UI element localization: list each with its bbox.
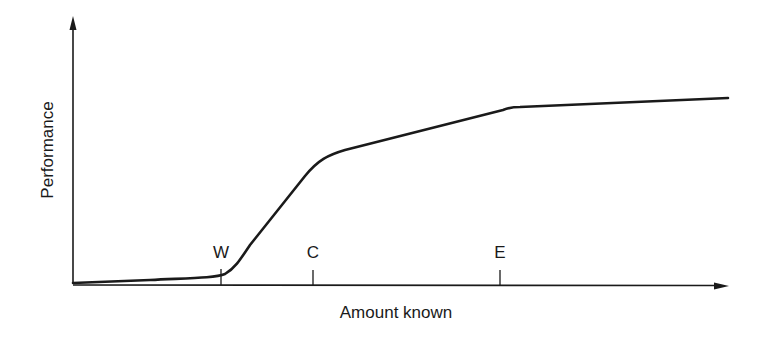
marker-label-c: C xyxy=(307,244,319,261)
x-axis xyxy=(73,285,718,286)
y-axis-arrow-icon xyxy=(70,16,77,30)
x-axis-arrow-icon xyxy=(714,283,729,290)
marker-label-e: E xyxy=(494,244,505,261)
x-axis-label: Amount known xyxy=(340,304,452,321)
y-axis-label: Performance xyxy=(39,101,56,198)
performance-curve xyxy=(73,98,728,283)
marker-label-w: W xyxy=(213,244,229,261)
performance-chart xyxy=(0,0,764,343)
